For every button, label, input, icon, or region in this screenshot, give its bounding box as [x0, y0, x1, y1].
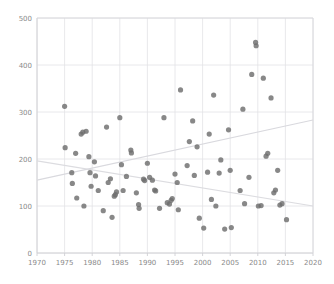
- x-tick-label: 1975: [56, 259, 74, 267]
- data-point: [249, 72, 254, 77]
- data-point: [101, 208, 106, 213]
- data-point: [104, 124, 109, 129]
- data-point: [69, 170, 74, 175]
- data-point: [201, 225, 206, 230]
- gridlines-group: [37, 18, 313, 253]
- data-point: [74, 195, 79, 200]
- data-point: [176, 207, 181, 212]
- data-point: [190, 118, 195, 123]
- data-point: [218, 157, 223, 162]
- data-point: [142, 178, 147, 183]
- data-point: [229, 225, 234, 230]
- data-point: [284, 217, 289, 222]
- data-point: [187, 139, 192, 144]
- data-point: [109, 215, 114, 220]
- data-point: [134, 190, 139, 195]
- data-point: [172, 171, 177, 176]
- y-tick-label: 100: [19, 203, 32, 211]
- data-point: [213, 203, 218, 208]
- data-point: [157, 206, 162, 211]
- data-point: [185, 163, 190, 168]
- data-point: [205, 170, 210, 175]
- data-point: [217, 171, 222, 176]
- data-point: [137, 206, 142, 211]
- x-tick-label: 2005: [221, 259, 239, 267]
- y-tick-label: 300: [19, 109, 32, 117]
- data-point: [121, 188, 126, 193]
- data-point: [259, 203, 264, 208]
- data-point: [178, 87, 183, 92]
- data-points-group: [62, 40, 289, 232]
- y-tick-label: 400: [19, 62, 32, 70]
- data-point: [96, 188, 101, 193]
- data-point: [228, 168, 233, 173]
- data-point: [114, 189, 119, 194]
- data-point: [279, 201, 284, 206]
- data-point: [273, 187, 278, 192]
- x-tick-label: 1985: [111, 259, 129, 267]
- data-point: [254, 43, 259, 48]
- data-point: [81, 203, 86, 208]
- y-tick-label: 500: [19, 15, 32, 23]
- data-point: [222, 226, 227, 231]
- data-point: [89, 184, 94, 189]
- y-tick-label: 200: [19, 156, 32, 164]
- data-point: [63, 145, 68, 150]
- data-point: [175, 180, 180, 185]
- data-point: [119, 162, 124, 167]
- data-point: [73, 151, 78, 156]
- data-point: [161, 115, 166, 120]
- data-point: [124, 174, 129, 179]
- data-point: [194, 144, 199, 149]
- data-point: [192, 173, 197, 178]
- data-point: [92, 159, 97, 164]
- data-point: [242, 201, 247, 206]
- data-point: [246, 175, 251, 180]
- data-point: [209, 197, 214, 202]
- data-point: [226, 127, 231, 132]
- x-tick-label: 1995: [166, 259, 184, 267]
- data-point: [170, 196, 175, 201]
- x-tick-label: 1990: [138, 259, 156, 267]
- data-point: [197, 216, 202, 221]
- data-point: [261, 76, 266, 81]
- data-point: [150, 178, 155, 183]
- data-point: [238, 188, 243, 193]
- data-point: [108, 176, 113, 181]
- x-tick-label: 2015: [276, 259, 294, 267]
- y-tick-label: 0: [28, 250, 32, 258]
- data-point: [129, 150, 134, 155]
- chart-canvas: 0100200300400500197019751980198519901995…: [0, 0, 334, 284]
- data-point: [207, 131, 212, 136]
- data-point: [211, 92, 216, 97]
- x-tick-label: 1970: [28, 259, 46, 267]
- x-tick-label: 2010: [249, 259, 267, 267]
- data-point: [86, 154, 91, 159]
- data-point: [265, 151, 270, 156]
- data-point: [84, 129, 89, 134]
- data-point: [87, 170, 92, 175]
- x-axis-ticklabels: 1970197519801985199019952000200520102015…: [28, 253, 322, 267]
- data-point: [275, 168, 280, 173]
- data-point: [240, 107, 245, 112]
- data-point: [153, 188, 158, 193]
- data-point: [93, 173, 98, 178]
- data-point: [145, 161, 150, 166]
- data-point: [70, 181, 75, 186]
- x-tick-label: 1980: [83, 259, 101, 267]
- scatter-chart: 0100200300400500197019751980198519901995…: [0, 0, 334, 284]
- y-axis-ticklabels: 0100200300400500: [19, 15, 32, 258]
- x-tick-label: 2000: [194, 259, 212, 267]
- data-point: [62, 104, 67, 109]
- x-tick-label: 2020: [304, 259, 322, 267]
- data-point: [268, 95, 273, 100]
- data-point: [117, 115, 122, 120]
